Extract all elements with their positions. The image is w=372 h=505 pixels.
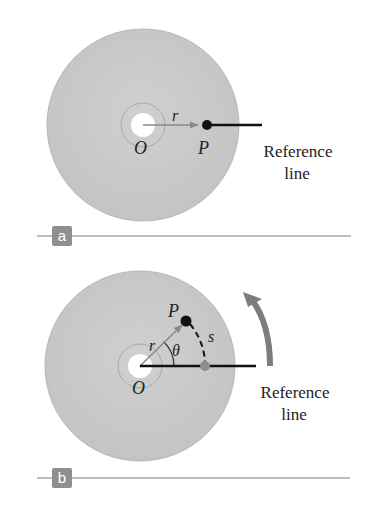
panel-b: P s r θ O Reference line b	[37, 271, 350, 488]
point-label: P	[167, 301, 179, 321]
panel-a: r O P Reference line a	[37, 29, 351, 246]
point-p	[202, 120, 212, 130]
panel-tag-b: b	[58, 469, 66, 486]
rotation-direction-arrow	[252, 300, 270, 366]
point-p	[181, 316, 192, 327]
arc-length-label: s	[208, 328, 214, 345]
reference-label-line2: line	[281, 405, 307, 424]
angle-label: θ	[172, 342, 180, 359]
reference-label-line1: Reference	[261, 383, 330, 402]
reference-label-line2: line	[284, 164, 310, 183]
panel-tag-a: a	[58, 227, 67, 244]
radius-label: r	[149, 337, 156, 354]
projection-dot	[200, 361, 210, 371]
origin-label: O	[134, 138, 147, 158]
radius-label: r	[172, 107, 179, 124]
origin-label: O	[132, 378, 145, 398]
point-label: P	[197, 138, 209, 158]
reference-label-line1: Reference	[264, 142, 333, 161]
rotating-disk-figure: r O P Reference line a P s r θ O Referen…	[0, 0, 372, 505]
